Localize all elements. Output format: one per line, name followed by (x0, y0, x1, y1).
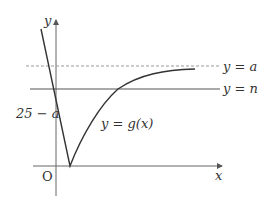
x-axis-label: x (215, 168, 223, 183)
curve-label: y = g(x) (100, 116, 153, 131)
y-intercept-label: 25 − a (15, 106, 59, 121)
origin-label: O (42, 169, 53, 184)
function-graph: y x O y = a y = n y = g(x) 25 − a (0, 0, 261, 205)
dashed-line-label: y = a (222, 59, 257, 74)
curve-g-of-x (41, 29, 195, 166)
y-axis-label: y (43, 13, 52, 28)
solid-line-label: y = n (222, 81, 258, 96)
